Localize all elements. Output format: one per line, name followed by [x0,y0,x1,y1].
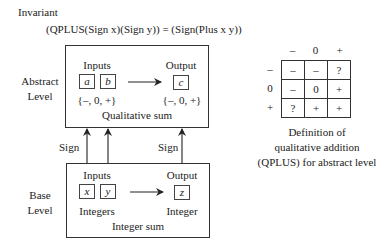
qplus-row-header: 0 [262,82,278,94]
qplus-cell: + [328,99,351,118]
qplus-row-header: + [262,101,278,113]
qplus-cell: + [305,99,328,118]
qplus-caption-line3: (QPLUS) for abstract level [252,155,382,170]
qplus-cell: – [305,61,328,80]
qplus-col-header: 0 [304,44,327,56]
qplus-cell: 0 [305,80,328,99]
qplus-cell: – [282,61,305,80]
qplus-cell: + [328,80,351,99]
qplus-cell: – [282,80,305,99]
qplus-cell: ? [282,99,305,118]
connector-arrows [0,0,389,247]
qplus-cell: ? [328,61,351,80]
qplus-caption: Definition of qualitative addition (QPLU… [252,125,382,170]
qplus-row-header: – [262,63,278,75]
qplus-col-header: + [328,44,351,56]
qplus-caption-line2: qualitative addition [252,140,382,155]
qplus-row: – 0 + [282,80,351,99]
qplus-table: – – ? – 0 + ? + + [281,60,351,118]
qplus-row: – – ? [282,61,351,80]
qplus-row: ? + + [282,99,351,118]
qplus-caption-line1: Definition of [252,125,382,140]
qplus-col-header: – [281,44,304,56]
